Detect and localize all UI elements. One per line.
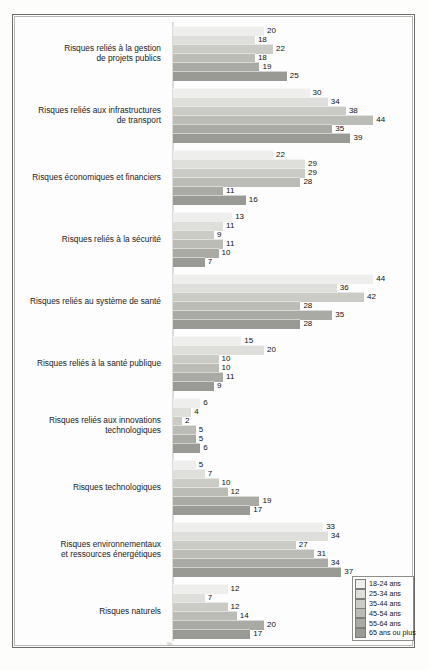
legend-item[interactable]: 18-24 ans xyxy=(355,579,411,589)
bar-value-label: 34 xyxy=(328,531,340,540)
bar-group: Risques reliés aux infrastructures de tr… xyxy=(0,88,429,142)
bar-value-label: 19 xyxy=(259,62,271,71)
bar xyxy=(173,133,350,143)
legend-item[interactable]: 25-34 ans xyxy=(355,589,411,599)
bar-value-label: 2 xyxy=(182,416,189,425)
legend-label: 65 ans ou plus xyxy=(369,628,416,637)
bar-value-label: 5 xyxy=(196,460,203,469)
bar-value-label: 18 xyxy=(255,35,267,44)
bar-value-label: 11 xyxy=(223,221,234,230)
bar-value-label: 36 xyxy=(337,283,349,292)
bar-value-label: 31 xyxy=(314,549,326,558)
legend-label: 25-34 ans xyxy=(369,589,401,598)
legend-item[interactable]: 45-54 ans xyxy=(355,608,411,618)
bar-group: Risques reliés à la gestion de projets p… xyxy=(0,26,429,80)
bar-value-label: 25 xyxy=(287,71,299,80)
bar-value-label: 5 xyxy=(196,434,203,443)
bar-value-label: 29 xyxy=(305,168,317,177)
bar-value-label: 18 xyxy=(255,53,267,62)
bar-value-label: 30 xyxy=(310,88,322,97)
bar-group: Risques reliés à la santé publique152010… xyxy=(0,336,429,390)
bar-value-label: 9 xyxy=(214,381,221,390)
bar-value-label: 33 xyxy=(323,522,335,531)
bar xyxy=(173,319,300,329)
bar-value-label: 27 xyxy=(296,540,308,549)
bar xyxy=(173,71,287,81)
bar-value-label: 15 xyxy=(241,336,253,345)
bar-value-label: 37 xyxy=(341,567,353,576)
bar-group: Risques reliés au système de santé443642… xyxy=(0,274,429,328)
bar-group: Risques reliés aux innovations technolog… xyxy=(0,398,429,452)
bar-value-label: 20 xyxy=(264,345,276,354)
category-label: Risques reliés à la gestion de projets p… xyxy=(11,43,161,64)
category-label: Risques reliés à la sécurité xyxy=(11,234,161,245)
legend-label: 35-44 ans xyxy=(369,599,401,608)
legend-swatch xyxy=(355,589,366,599)
bar-value-label: 14 xyxy=(237,611,249,620)
bar-value-label: 34 xyxy=(328,558,340,567)
bar-value-label: 44 xyxy=(373,115,385,124)
legend-swatch xyxy=(355,628,366,638)
legend-item[interactable]: 55-64 ans xyxy=(355,618,411,628)
bar-value-label: 28 xyxy=(300,177,312,186)
bar-value-label: 17 xyxy=(250,505,262,514)
legend-item[interactable]: 35-44 ans xyxy=(355,599,411,609)
bar-value-label: 22 xyxy=(273,150,285,159)
bar-value-label: 13 xyxy=(232,212,244,221)
bar-value-label: 29 xyxy=(305,159,317,168)
category-label: Risques économiques et financiers xyxy=(11,172,161,183)
category-label: Risques reliés à la santé publique xyxy=(11,358,161,369)
legend-label: 55-64 ans xyxy=(369,619,401,628)
bar-value-label: 10 xyxy=(219,248,231,257)
chart-figure: % Risques reliés à la gestion de projets… xyxy=(0,0,429,670)
bar-group: Risques économiques et financiers2229292… xyxy=(0,150,429,204)
bar-value-label: 6 xyxy=(200,398,207,407)
legend-label: 45-54 ans xyxy=(369,609,401,618)
category-label: Risques technologiques xyxy=(11,482,161,493)
bar-value-label: 4 xyxy=(191,407,198,416)
bar-value-label: 20 xyxy=(264,26,276,35)
bar-value-label: 11 xyxy=(223,186,234,195)
category-label: Risques reliés aux innovations technolog… xyxy=(11,415,161,436)
bar-value-label: 7 xyxy=(205,593,212,602)
bar-value-label: 19 xyxy=(259,496,271,505)
bar-group: Risques technologiques5710121917 xyxy=(0,460,429,514)
bar-value-label: 28 xyxy=(300,319,312,328)
bar-value-label: 10 xyxy=(219,478,231,487)
bar-value-label: 7 xyxy=(205,469,212,478)
category-label: Risques reliés aux infrastructures de tr… xyxy=(11,105,161,126)
bar-value-label: 16 xyxy=(246,195,258,204)
bar-value-label: 28 xyxy=(300,301,312,310)
bar xyxy=(173,629,250,639)
bar xyxy=(173,195,246,205)
bar-value-label: 10 xyxy=(219,363,231,372)
bar-value-label: 44 xyxy=(373,274,385,283)
bar-value-label: 34 xyxy=(328,97,340,106)
bar-value-label: 12 xyxy=(228,602,240,611)
bar-value-label: 11 xyxy=(223,239,234,248)
bar xyxy=(173,257,205,267)
legend-item[interactable]: 65 ans ou plus xyxy=(355,628,411,638)
bar-value-label: 42 xyxy=(364,292,376,301)
bar xyxy=(173,381,214,391)
legend-swatch xyxy=(355,608,366,618)
legend-swatch xyxy=(355,599,366,609)
bar-value-label: 20 xyxy=(264,620,276,629)
bar-value-label: 39 xyxy=(350,133,362,142)
legend-swatch xyxy=(355,579,366,589)
bar-value-label: 12 xyxy=(228,584,240,593)
bar-value-label: 11 xyxy=(223,372,234,381)
bar-value-label: 12 xyxy=(228,487,240,496)
bar-value-label: 35 xyxy=(332,310,344,319)
category-label: Risques naturels xyxy=(11,606,161,617)
bar xyxy=(173,567,341,577)
axis-unit-label: % xyxy=(167,641,172,647)
bar-value-label: 22 xyxy=(273,44,285,53)
bar-value-label: 5 xyxy=(196,425,203,434)
bar-value-label: 38 xyxy=(346,106,358,115)
legend-swatch xyxy=(355,618,366,628)
bar xyxy=(173,443,200,453)
bar xyxy=(173,505,250,515)
bar-value-label: 6 xyxy=(200,443,207,452)
legend-label: 18-24 ans xyxy=(369,579,401,588)
